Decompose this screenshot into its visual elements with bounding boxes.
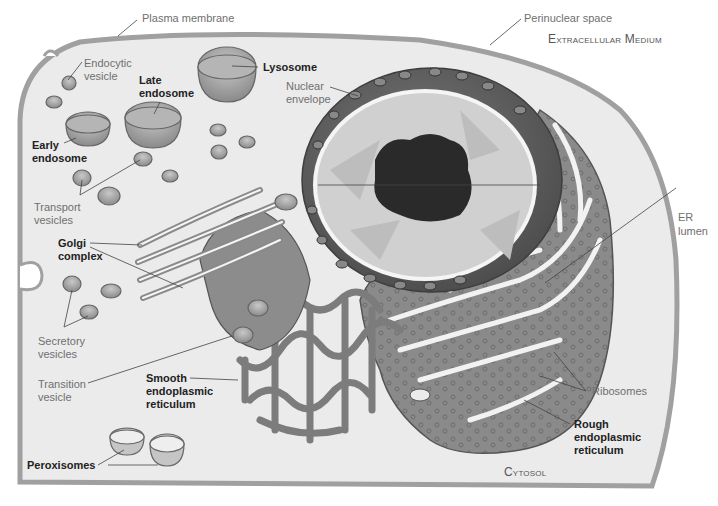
label-plasma-membrane: Plasma membrane xyxy=(142,12,234,25)
label-secretory-vesicles-2: vesicles xyxy=(38,348,77,361)
cell-diagram: Plasma membrane Extracellular Medium End… xyxy=(0,0,718,506)
label-rough-er-2: endoplasmic xyxy=(574,431,641,444)
label-rough-er-1: Rough xyxy=(574,418,609,431)
label-lysosome: Lysosome xyxy=(263,61,317,74)
label-smooth-er-3: reticulum xyxy=(146,398,196,411)
label-smooth-er-1: Smooth xyxy=(146,372,187,385)
label-transport-vesicles-1: Transport xyxy=(34,201,81,214)
label-early-endosome-2: endosome xyxy=(32,152,87,165)
label-rough-er-3: reticulum xyxy=(574,444,624,457)
label-endocytic-vesicle-1: Endocytic xyxy=(84,57,132,70)
label-nuclear-envelope-1: Nuclear xyxy=(286,80,324,93)
label-nuclear-envelope-2: envelope xyxy=(286,93,331,106)
label-late-endosome-2: endosome xyxy=(139,87,194,100)
label-cytosol: Cytosol xyxy=(504,466,546,479)
label-golgi-complex-1: Golgi xyxy=(58,237,86,250)
label-er-lumen-1: ER xyxy=(678,211,693,224)
label-perinuclear-space: Perinuclear space xyxy=(524,12,612,25)
label-ribosomes: Ribosomes xyxy=(592,385,647,398)
label-endocytic-vesicle-2: vesicle xyxy=(84,70,118,83)
label-secretory-vesicles-1: Secretory xyxy=(38,335,85,348)
label-extracellular-medium: Extracellular Medium xyxy=(548,33,662,46)
nucleus xyxy=(302,68,562,292)
label-transition-vesicle-2: vesicle xyxy=(38,391,72,404)
label-smooth-er-2: endoplasmic xyxy=(146,385,213,398)
label-late-endosome-1: Late xyxy=(139,74,162,87)
label-early-endosome-1: Early xyxy=(32,139,59,152)
label-transport-vesicles-2: vesicles xyxy=(34,214,73,227)
label-er-lumen-2: lumen xyxy=(678,225,708,238)
label-peroxisomes: Peroxisomes xyxy=(27,459,95,472)
label-transition-vesicle-1: Transition xyxy=(38,378,86,391)
label-golgi-complex-2: complex xyxy=(58,250,103,263)
